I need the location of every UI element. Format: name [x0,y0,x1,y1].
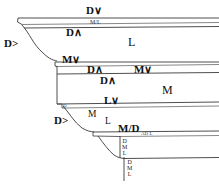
fault-curve-upper [22,25,57,61]
horizon-line-d-up-top [24,27,219,29]
left-cap-top-band [18,18,23,25]
label-top-d-down: D∨ [86,5,102,16]
label-top-d-up: D∧ [66,27,82,38]
horizon-line-md-top [93,131,219,132]
horizon-line-adl [120,136,219,137]
label-small-d: D [63,103,67,108]
label-left-d-gt-1: D> [4,38,18,49]
cross-section-lines [0,0,219,185]
label-left-d-gt-2: D> [54,115,68,126]
diagram-canvas: D∨ M/L D∧ D> L M∨ D∧ M∨ D∧ M L∨ D D> M L… [0,0,219,185]
label-low-l: L [105,117,111,127]
label-low-m: M [88,110,96,120]
stack-upper-dml: D M L [122,138,127,156]
label-mid-l-down: L∨ [104,95,119,106]
label-top-ml: M/L [90,19,101,25]
stack-lower-dml: D M L [127,159,132,177]
horizon-line-ml [22,23,219,25]
left-cap-md-band [93,132,120,137]
horizon-line-l-down [57,102,219,104]
label-low-adl: AD L [141,131,153,136]
label-zone-m: M [162,84,173,96]
label-mid-m-down-2: M∨ [134,64,152,75]
label-mid-m-down: M∨ [62,54,80,65]
horizon-line-l-down-2 [66,106,219,108]
horizon-line-bottom [124,158,219,159]
stack-lower-item-l: L [128,171,132,177]
label-low-md: M/D [118,123,139,134]
stack-upper-item-l: L [123,150,127,156]
label-zone-l: L [128,36,135,48]
label-mid-d-up-2: D∧ [100,75,116,86]
left-cap-mid-band [55,62,57,67]
